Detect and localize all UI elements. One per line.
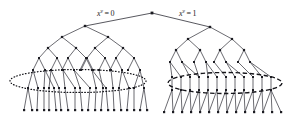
root-node	[151, 12, 154, 15]
right-leaf-nodes	[163, 111, 282, 113]
left-branch-value: 0	[110, 9, 114, 18]
right-branch-value: 1	[192, 9, 196, 18]
right-branch-equals: =	[187, 9, 192, 18]
tree-diagram-canvas: xv=0 xv=1	[0, 0, 294, 120]
right-branch-superscript: v	[183, 8, 186, 14]
right-branch-label: xv=1	[178, 8, 196, 18]
left-subtree-edges	[24, 26, 147, 110]
tree-nodes	[23, 12, 282, 114]
right-subtree-edges	[164, 27, 281, 112]
right-subtree-nodes	[169, 26, 272, 91]
left-branch-equals: =	[105, 9, 110, 18]
left-branch-superscript: v	[101, 8, 104, 14]
tree-diagram-figure: xv=0 xv=1	[0, 0, 294, 120]
left-leaf-nodes	[23, 109, 148, 111]
left-branch-label: xv=0	[96, 8, 114, 18]
